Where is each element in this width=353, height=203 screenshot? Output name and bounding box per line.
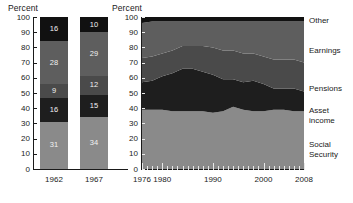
left-y-tick-70: [34, 63, 37, 64]
left-y-tick-100: [34, 17, 37, 18]
right-y-tick-label-100: 100: [110, 13, 138, 22]
right-x-tick-1999: [258, 166, 259, 170]
left-y-tick-30: [34, 123, 37, 124]
right-y-tick-20: [142, 139, 145, 140]
left-y-tick-label-90: 90: [2, 28, 30, 37]
right-x-tick-1986: [193, 166, 194, 170]
right-x-tick-1985: [188, 166, 189, 170]
right-x-tick-2008: [304, 163, 305, 170]
bar-segment-1967-social-security: 34: [80, 117, 108, 169]
right-x-tick-2007: [299, 166, 300, 170]
right-x-tick-1983: [177, 166, 178, 170]
right-y-tick-70: [142, 63, 145, 64]
right-x-tick-1976: [142, 163, 143, 170]
left-y-tick-50: [34, 93, 37, 94]
right-y-tick-label-70: 70: [110, 58, 138, 67]
right-y-tick-90: [142, 32, 145, 33]
right-y-tick-label-50: 50: [110, 89, 138, 98]
left-y-tick-40: [34, 108, 37, 109]
right-x-tick-2005: [289, 166, 290, 170]
bar-segment-1967-asset-income: 15: [80, 95, 108, 118]
left-y-tick-label-30: 30: [2, 119, 30, 128]
right-x-tick-1998: [253, 166, 254, 170]
left-y-tick-label-0: 0: [2, 165, 30, 174]
bar-value-label: 10: [80, 20, 108, 29]
area-band-social-security: [142, 107, 304, 169]
right-x-tick-1996: [243, 166, 244, 170]
bar-value-label: 9: [40, 86, 68, 95]
bar-value-label: 16: [40, 105, 68, 114]
left-x-label-1967: 1967: [80, 175, 108, 184]
right-x-tick-1990: [213, 163, 214, 170]
right-panel-title: Percent: [112, 3, 142, 13]
right-x-tick-1997: [248, 166, 249, 170]
bar-value-label: 29: [80, 49, 108, 58]
legend-label-earnings: Earnings: [309, 46, 341, 56]
bar-value-label: 34: [80, 138, 108, 147]
right-y-tick-40: [142, 108, 145, 109]
right-y-tick-10: [142, 154, 145, 155]
right-y-tick-30: [142, 123, 145, 124]
right-x-tick-2002: [274, 166, 275, 170]
left-y-tick-label-50: 50: [2, 89, 30, 98]
right-x-tick-1979: [157, 166, 158, 170]
legend-label-asset-income-line2: income: [309, 116, 335, 126]
right-y-tick-label-10: 10: [110, 149, 138, 158]
right-x-tick-1995: [238, 166, 239, 170]
right-y-tick-60: [142, 78, 145, 79]
right-x-tick-2000: [264, 163, 265, 170]
right-x-tick-1992: [223, 166, 224, 170]
right-x-tick-1988: [203, 166, 204, 170]
left-y-tick-label-20: 20: [2, 134, 30, 143]
left-y-tick-10: [34, 154, 37, 155]
left-y-tick-20: [34, 139, 37, 140]
left-y-tick-label-80: 80: [2, 43, 30, 52]
legend-label-pensions: Pensions: [309, 84, 342, 94]
right-x-tick-1982: [172, 166, 173, 170]
stacked-area-plot: [142, 17, 304, 169]
figure: Percent 0102030405060708090100 311692816…: [0, 0, 353, 203]
legend-label-social-security-line2: Security: [309, 150, 338, 160]
right-x-tick-1984: [183, 166, 184, 170]
right-x-tick-2006: [294, 166, 295, 170]
bar-value-label: 28: [40, 58, 68, 67]
bar-value-label: 31: [40, 140, 68, 149]
left-y-tick-80: [34, 47, 37, 48]
left-y-tick-label-10: 10: [2, 149, 30, 158]
left-y-tick-label-60: 60: [2, 73, 30, 82]
right-y-tick-label-20: 20: [110, 134, 138, 143]
bar-segment-1967-other: 10: [80, 17, 108, 32]
right-x-tick-1977: [147, 166, 148, 170]
right-x-tick-1989: [208, 166, 209, 170]
right-y-tick-50: [142, 93, 145, 94]
left-x-label-1962: 1962: [40, 175, 68, 184]
right-x-tick-1991: [218, 166, 219, 170]
right-x-tick-1993: [228, 166, 229, 170]
right-x-tick-1980: [162, 163, 163, 170]
legend-label-social-security-line1: Social: [309, 140, 331, 150]
right-x-tick-1978: [152, 166, 153, 170]
legend-label-other: Other: [309, 16, 329, 26]
left-panel-title: Percent: [8, 3, 38, 13]
right-y-tick-label-30: 30: [110, 119, 138, 128]
right-y-tick-label-80: 80: [110, 43, 138, 52]
bar-value-label: 16: [40, 24, 68, 33]
right-x-tick-1994: [233, 166, 234, 170]
right-y-tick-label-0: 0: [110, 165, 138, 174]
stacked-bar-1967: 3415122910: [80, 17, 108, 169]
left-y-tick-90: [34, 32, 37, 33]
legend-label-asset-income-line1: Asset: [309, 106, 329, 116]
right-y-tick-label-40: 40: [110, 104, 138, 113]
left-y-tick-60: [34, 78, 37, 79]
left-y-tick-label-100: 100: [2, 13, 30, 22]
bar-segment-1962-social-security: 31: [40, 122, 68, 169]
right-x-tick-2004: [284, 166, 285, 170]
left-y-tick-label-40: 40: [2, 104, 30, 113]
bar-segment-1962-other: 16: [40, 17, 68, 41]
right-x-tick-1987: [198, 166, 199, 170]
left-y-tick-label-70: 70: [2, 58, 30, 67]
right-y-tick-100: [142, 17, 145, 18]
right-x-tick-2001: [269, 166, 270, 170]
right-x-label-1980: 1980: [149, 175, 175, 184]
bar-segment-1962-asset-income: 16: [40, 98, 68, 122]
